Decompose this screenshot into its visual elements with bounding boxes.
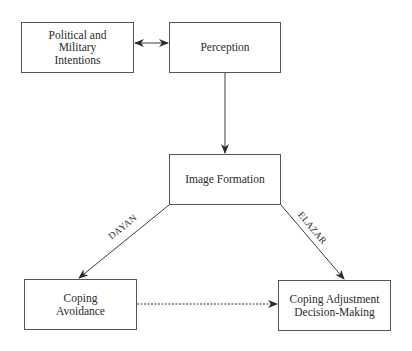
diagram-canvas: Political and Military Intentions Percep… (0, 0, 412, 351)
edge-image-adjustment (281, 205, 344, 279)
node-label: Coping Adjustment Decision-Making (290, 293, 380, 318)
node-perception: Perception (169, 22, 281, 73)
node-coping-avoidance: Coping Avoidance (24, 279, 137, 330)
node-political-military-intentions: Political and Military Intentions (21, 22, 134, 73)
edge-image-avoidance (79, 205, 169, 278)
node-label: Coping Avoidance (56, 292, 105, 317)
node-coping-adjustment: Coping Adjustment Decision-Making (278, 280, 391, 331)
node-label: Image Formation (185, 173, 265, 186)
node-label: Perception (200, 41, 249, 54)
node-image-formation: Image Formation (169, 154, 281, 205)
node-label: Political and Military Intentions (49, 29, 107, 67)
